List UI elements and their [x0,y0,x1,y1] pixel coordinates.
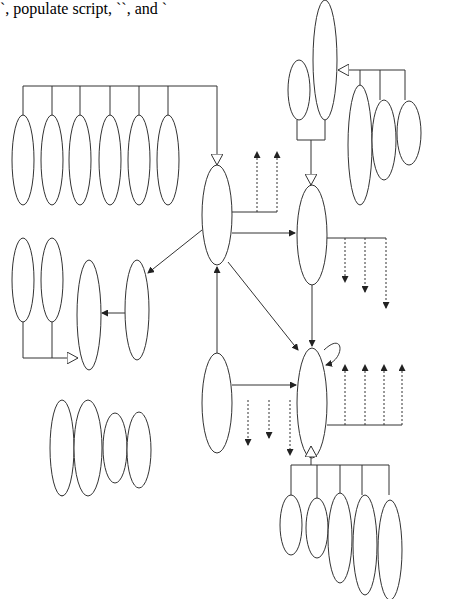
class-transfer[interactable] [128,115,150,205]
class-nurse[interactable] [103,413,127,483]
device-subclass-group [288,0,421,205]
ontology-diagram: I stopped this partway through. The HTML… [0,0,468,599]
class-waiting-room[interactable] [353,495,377,595]
class-lab-staff[interactable] [50,400,74,496]
class-document[interactable] [125,260,149,360]
class-treatment[interactable] [99,115,121,205]
class-mobile-device[interactable] [313,0,337,120]
location-subclass-group [280,446,402,599]
class-person[interactable] [202,353,232,453]
class-diagnosis[interactable] [41,115,63,205]
class-office[interactable] [306,498,328,558]
class-admission[interactable] [12,115,34,205]
class-wheelchair[interactable] [372,100,396,180]
class-oxrb[interactable] [397,101,421,165]
class-location[interactable] [297,348,327,458]
class-doctor[interactable] [127,412,151,488]
personnel-group: I stopped this partway through. The HTML… [50,400,151,496]
class-bed[interactable] [288,60,310,120]
class-ward[interactable] [280,495,302,555]
class-testing[interactable] [69,115,91,205]
class-test-facility[interactable] [328,493,352,583]
class-activity[interactable] [202,165,232,265]
class-device[interactable] [297,185,327,285]
class-non-med-staff[interactable] [74,400,102,496]
class-disease[interactable] [41,238,63,322]
activity-subclass-group [12,86,217,205]
class-medical-term[interactable] [77,260,101,370]
class-discharge[interactable] [157,115,179,205]
medical-term-group [12,238,101,370]
class-surgery-room[interactable] [378,500,402,599]
class-medicine[interactable] [12,238,34,322]
class-infusion-pump[interactable] [348,85,372,205]
